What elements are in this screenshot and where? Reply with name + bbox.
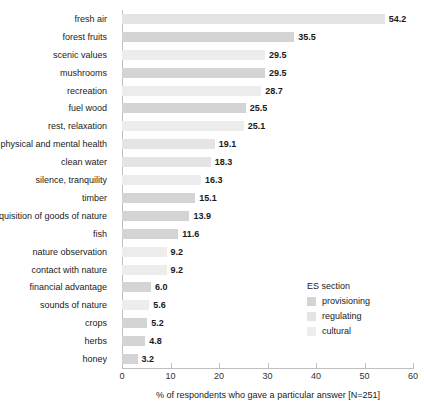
category-label: nature observation bbox=[32, 247, 107, 257]
x-axis-tick-mark bbox=[122, 363, 123, 368]
bar-value-label: 19.1 bbox=[215, 139, 237, 149]
category-label: timber bbox=[82, 193, 107, 203]
x-axis-tick-label: 20 bbox=[214, 371, 224, 381]
bar bbox=[122, 354, 138, 364]
bar-value-label: 29.5 bbox=[265, 50, 287, 60]
category-label: mushrooms bbox=[60, 68, 107, 78]
category-label: forest fruits bbox=[62, 32, 107, 42]
x-axis-tick-mark bbox=[219, 363, 220, 368]
bar bbox=[122, 103, 246, 113]
legend-swatch bbox=[307, 312, 316, 321]
category-label: herbs bbox=[84, 336, 107, 346]
bar-value-label: 6.0 bbox=[151, 282, 168, 292]
bar bbox=[122, 247, 167, 257]
bar-row: timber15.1 bbox=[122, 189, 413, 207]
bar-row: nature observation9.2 bbox=[122, 243, 413, 261]
category-label: crops bbox=[85, 318, 107, 328]
bar-row: scenic values29.5 bbox=[122, 46, 413, 64]
legend-item: cultural bbox=[307, 326, 370, 336]
bar-value-label: 25.1 bbox=[244, 121, 266, 131]
bar-value-label: 28.7 bbox=[261, 86, 283, 96]
bar-value-label: 54.2 bbox=[385, 14, 407, 24]
bar-chart: fresh air54.2forest fruits35.5scenic val… bbox=[0, 0, 424, 413]
bar bbox=[122, 68, 265, 78]
bar-value-label: 13.9 bbox=[189, 211, 211, 221]
bar bbox=[122, 318, 147, 328]
legend-swatch bbox=[307, 297, 316, 306]
bar bbox=[122, 336, 145, 346]
category-label: financial advantage bbox=[29, 282, 107, 292]
x-axis-tick-mark bbox=[316, 363, 317, 368]
bar-row: acquisition of goods of nature13.9 bbox=[122, 207, 413, 225]
x-axis-tick-label: 30 bbox=[262, 371, 272, 381]
legend-label: regulating bbox=[322, 311, 362, 321]
category-label: sounds of nature bbox=[40, 300, 107, 310]
bar-row: mushrooms29.5 bbox=[122, 64, 413, 82]
bar-value-label: 15.1 bbox=[195, 193, 217, 203]
bar bbox=[122, 175, 201, 185]
bar-row: clean water18.3 bbox=[122, 153, 413, 171]
bar bbox=[122, 300, 149, 310]
bar-row: contact with nature9.2 bbox=[122, 261, 413, 279]
bar bbox=[122, 86, 261, 96]
legend-swatch bbox=[307, 327, 316, 336]
bar-row: silence, tranquility16.3 bbox=[122, 171, 413, 189]
category-label: clean water bbox=[61, 157, 107, 167]
bar-row: fuel wood25.5 bbox=[122, 100, 413, 118]
bar bbox=[122, 265, 167, 275]
x-axis-tick-label: 60 bbox=[408, 371, 418, 381]
bar bbox=[122, 193, 195, 203]
x-axis-tick-label: 0 bbox=[119, 371, 124, 381]
x-axis-tick-label: 50 bbox=[359, 371, 369, 381]
category-label: physical and mental health bbox=[0, 139, 107, 149]
x-axis-tick-mark bbox=[171, 363, 172, 368]
category-label: fuel wood bbox=[68, 103, 107, 113]
bar bbox=[122, 229, 178, 239]
x-axis-title: % of respondents who gave a particular a… bbox=[122, 390, 414, 400]
bar-value-label: 18.3 bbox=[211, 157, 233, 167]
x-axis-line bbox=[122, 368, 414, 369]
legend-items: provisioningregulatingcultural bbox=[307, 296, 370, 336]
category-label: fresh air bbox=[74, 14, 107, 24]
category-label: contact with nature bbox=[31, 265, 107, 275]
legend-title: ES section bbox=[307, 281, 370, 291]
x-axis-tick-mark bbox=[413, 363, 414, 368]
category-label: acquisition of goods of nature bbox=[0, 211, 107, 221]
category-label: silence, tranquility bbox=[35, 175, 107, 185]
bar-value-label: 11.6 bbox=[178, 229, 199, 239]
bar-row: fresh air54.2 bbox=[122, 10, 413, 28]
category-label: scenic values bbox=[53, 50, 107, 60]
bar-value-label: 9.2 bbox=[167, 247, 184, 257]
bar bbox=[122, 14, 385, 24]
bar bbox=[122, 282, 151, 292]
category-label: fish bbox=[93, 229, 107, 239]
bar-value-label: 9.2 bbox=[167, 265, 184, 275]
bar bbox=[122, 121, 244, 131]
x-axis-tick-label: 10 bbox=[165, 371, 175, 381]
bar bbox=[122, 157, 211, 167]
legend-item: regulating bbox=[307, 311, 370, 321]
category-label: rest, relaxation bbox=[48, 121, 107, 131]
bar-value-label: 29.5 bbox=[265, 68, 287, 78]
legend-item: provisioning bbox=[307, 296, 370, 306]
bar bbox=[122, 139, 215, 149]
bar-value-label: 3.2 bbox=[138, 354, 155, 364]
category-label: honey bbox=[82, 354, 107, 364]
legend: ES section provisioningregulatingcultura… bbox=[307, 281, 370, 341]
bar-value-label: 25.5 bbox=[246, 103, 268, 113]
bar-row: physical and mental health19.1 bbox=[122, 135, 413, 153]
legend-label: provisioning bbox=[322, 296, 370, 306]
x-axis-tick-mark bbox=[365, 363, 366, 368]
bar-value-label: 4.8 bbox=[145, 336, 162, 346]
bar-row: forest fruits35.5 bbox=[122, 28, 413, 46]
bar-row: fish11.6 bbox=[122, 225, 413, 243]
bar-row: recreation28.7 bbox=[122, 82, 413, 100]
bar-row: rest, relaxation25.1 bbox=[122, 117, 413, 135]
bar-value-label: 5.2 bbox=[147, 318, 164, 328]
bar bbox=[122, 211, 189, 221]
bar-value-label: 16.3 bbox=[201, 175, 223, 185]
x-axis-tick-label: 40 bbox=[311, 371, 321, 381]
bar-value-label: 35.5 bbox=[294, 32, 316, 42]
bar-value-label: 5.6 bbox=[149, 300, 166, 310]
bar bbox=[122, 32, 294, 42]
